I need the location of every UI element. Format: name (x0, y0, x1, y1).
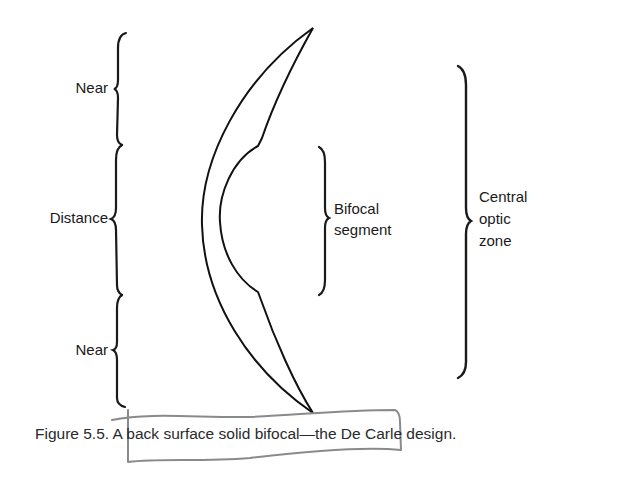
bifocal-segment-brace (319, 147, 329, 295)
distance-brace (111, 145, 122, 295)
figure-caption: Figure 5.5. A back surface solid bifocal… (35, 425, 456, 443)
central-optic-zone-label-line1: Central (479, 187, 527, 206)
lens-diagram (0, 0, 633, 493)
lens-cross-section (202, 28, 313, 413)
central-optic-zone-brace (458, 66, 471, 378)
bifocal-segment-label-line1: Bifocal (334, 199, 379, 218)
near-bottom-label: Near (52, 340, 108, 359)
lens-figure: Near Distance Near Bifocal segment Centr… (0, 0, 633, 493)
near-bottom-brace (113, 295, 125, 407)
bifocal-segment-label-line2: segment (334, 220, 392, 239)
near-top-brace (114, 33, 126, 145)
distance-label: Distance (22, 208, 108, 227)
central-optic-zone-label-line3: zone (479, 231, 512, 250)
central-optic-zone-label-line2: optic (479, 209, 511, 228)
near-top-label: Near (52, 78, 108, 97)
